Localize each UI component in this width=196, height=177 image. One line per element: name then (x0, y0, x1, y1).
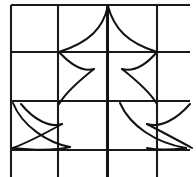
drawing-canvas: Pine tree line drawing on practice grid … (0, 0, 196, 177)
tree-grid-figure (0, 0, 196, 177)
